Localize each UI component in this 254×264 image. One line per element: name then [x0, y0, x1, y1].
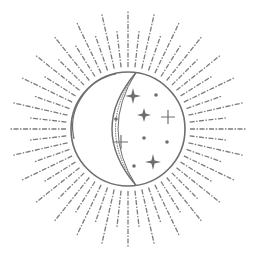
sun-ray [34, 96, 70, 109]
sun-ray [117, 30, 121, 68]
sun-ray [77, 23, 101, 73]
sun-ray [57, 58, 84, 85]
sun-ray [190, 118, 228, 122]
sun-ray [184, 78, 234, 102]
star-dot-icon [154, 93, 158, 97]
sun-ray [22, 156, 72, 180]
sun-ray [75, 181, 95, 213]
sun-ray [155, 23, 179, 73]
sun-ray [172, 173, 199, 200]
sun-ray [187, 149, 223, 162]
sun-ray [155, 185, 179, 235]
moon-disc [71, 72, 185, 186]
sun-ray [148, 188, 161, 224]
moon-stars-sunburst-icon [0, 0, 254, 264]
star-dot-icon [114, 117, 118, 121]
sun-ray [148, 35, 161, 71]
star-dot-icon [132, 164, 136, 168]
sun-ray [77, 185, 101, 235]
sun-ray [34, 149, 70, 162]
sun-ray [95, 188, 108, 224]
sun-ray [187, 96, 223, 109]
sun-ray [172, 58, 199, 85]
sun-ray [57, 173, 84, 200]
sun-ray [117, 191, 121, 229]
star-dot-icon [142, 136, 146, 140]
sun-ray [180, 162, 212, 182]
sun-ray [29, 136, 67, 140]
moon-illustration [0, 0, 254, 264]
sun-ray [135, 30, 139, 68]
sun-ray [161, 181, 181, 213]
star-dot-icon [165, 140, 169, 144]
sun-ray [135, 191, 139, 229]
sun-ray [190, 136, 228, 140]
sun-ray [75, 44, 95, 76]
sun-ray [43, 162, 75, 182]
sun-ray [180, 76, 212, 96]
sun-ray [29, 118, 67, 122]
sun-ray [95, 35, 108, 71]
sun-ray [43, 76, 75, 96]
sun-ray [184, 156, 234, 180]
sun-ray [161, 44, 181, 76]
sun-ray [22, 78, 72, 102]
